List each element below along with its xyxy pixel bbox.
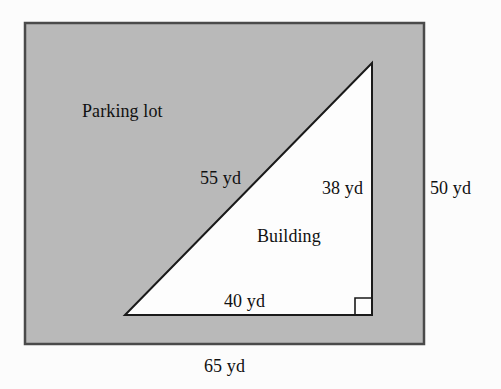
horizontal-leg-length-label: 40 yd [224, 291, 265, 311]
parking-lot-label: Parking lot [82, 101, 163, 121]
geometry-figure [0, 0, 501, 389]
diagram-canvas: Parking lot 55 yd 38 yd Building 40 yd 5… [0, 0, 501, 389]
lot-width-label: 65 yd [204, 356, 245, 376]
lot-height-label: 50 yd [430, 178, 471, 198]
vertical-leg-length-label: 38 yd [322, 178, 363, 198]
building-label: Building [257, 226, 321, 246]
hypotenuse-length-label: 55 yd [200, 168, 241, 188]
